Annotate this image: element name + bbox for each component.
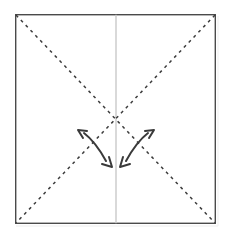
origami-diagram: Origami fold diagram - square with diago…: [0, 0, 231, 239]
origami-figure: [0, 0, 231, 239]
